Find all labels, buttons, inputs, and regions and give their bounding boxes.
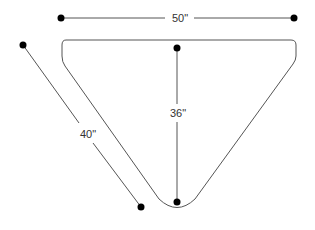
- width-start-dot: [58, 15, 65, 22]
- side-dimension: 40": [20, 42, 145, 211]
- side-label: 40": [80, 128, 96, 140]
- width-end-dot: [291, 15, 298, 22]
- depth-dimension: 36": [170, 45, 186, 206]
- depth-end-dot: [174, 199, 181, 206]
- width-dimension: 50": [58, 12, 298, 24]
- depth-label: 36": [170, 107, 186, 119]
- table-outline: [62, 40, 296, 208]
- table-dimension-diagram: 50" 36" 40": [0, 0, 315, 230]
- side-start-dot: [20, 42, 27, 49]
- depth-start-dot: [174, 45, 181, 52]
- side-end-dot: [138, 204, 145, 211]
- width-label: 50": [172, 12, 188, 24]
